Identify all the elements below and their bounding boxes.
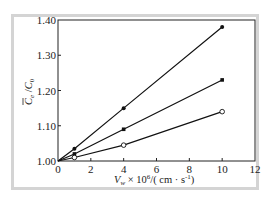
data-series xyxy=(58,25,224,161)
series-filled-circle xyxy=(58,25,224,161)
plot-area xyxy=(58,20,255,161)
data-point xyxy=(122,127,126,131)
svg-text:Vw × 106/( cm · s-1): Vw × 106/( cm · s-1) xyxy=(114,173,195,187)
data-point xyxy=(121,143,126,148)
x-tick-label: 12 xyxy=(250,163,261,175)
plot-border xyxy=(58,20,255,161)
data-point xyxy=(220,109,225,114)
x-tick-label: 0 xyxy=(55,163,61,175)
svg-text:Ce /C0: Ce /C0 xyxy=(23,78,36,105)
y-tick-label: 1.20 xyxy=(37,85,57,97)
y-axis-title: Ce /C0 xyxy=(23,78,36,105)
data-point xyxy=(72,155,77,160)
data-point xyxy=(72,147,76,151)
x-axis-title: Vw × 106/( cm · s-1) xyxy=(114,173,195,187)
data-point xyxy=(122,106,126,110)
y-tick-label: 1.40 xyxy=(37,14,57,26)
x-tick-label: 10 xyxy=(217,163,229,175)
y-tick-label: 1.10 xyxy=(37,120,57,132)
y-tick-label: 1.30 xyxy=(37,49,57,61)
axis-ticks: 0246810121.001.101.201.301.40 xyxy=(37,14,261,175)
data-point xyxy=(220,25,224,29)
line-chart: 0246810121.001.101.201.301.40 Vw × 106/(… xyxy=(0,0,273,199)
series-open-circle xyxy=(58,109,224,161)
data-point xyxy=(220,78,224,82)
x-tick-label: 2 xyxy=(88,163,94,175)
y-tick-label: 1.00 xyxy=(37,155,57,167)
